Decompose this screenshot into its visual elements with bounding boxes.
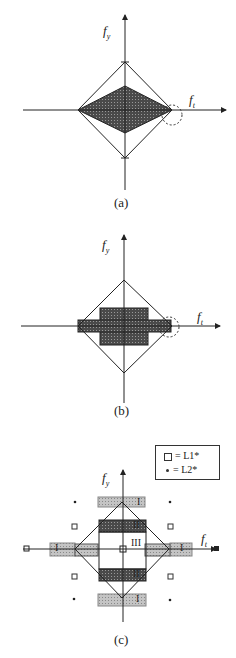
caption-a: (a) (114, 195, 128, 211)
x-axis-label-a: ft (189, 92, 195, 110)
panel-a (23, 15, 226, 190)
region-label-I-left: I (55, 542, 58, 553)
figure-canvas (0, 0, 236, 658)
l1-marker (72, 574, 77, 579)
caption-c: (c) (114, 632, 128, 648)
dot-icon (166, 469, 169, 472)
region-label-I-top: I (137, 496, 140, 507)
l2-marker (169, 501, 172, 504)
region-label-III: III (131, 537, 141, 548)
region-label-I-bottom: I (136, 593, 139, 604)
legend: = L1* = L2* (155, 445, 220, 480)
x-axis-label-b: ft (197, 309, 203, 327)
l2-marker (74, 501, 77, 504)
x-axis-label-c: ft (201, 531, 207, 549)
panel-c (23, 470, 219, 622)
y-axis-label-c: fy (102, 470, 109, 488)
legend-item-l1: = L1* (164, 450, 199, 461)
l2-marker (73, 598, 76, 601)
region-label-I-right: I (180, 542, 183, 553)
y-axis-label-b: fy (102, 237, 109, 255)
region-label-II-top: II (133, 519, 140, 530)
panel-b (21, 235, 220, 403)
legend-item-l2: = L2* (164, 464, 197, 475)
y-axis-label-a: fy (103, 23, 110, 41)
l1-marker (168, 524, 173, 529)
region-label-II-bottom: II (133, 568, 140, 579)
l1-marker (168, 574, 173, 579)
l1-marker (72, 524, 77, 529)
square-icon (164, 453, 172, 461)
l2-marker (169, 599, 172, 602)
caption-b: (b) (114, 403, 129, 419)
